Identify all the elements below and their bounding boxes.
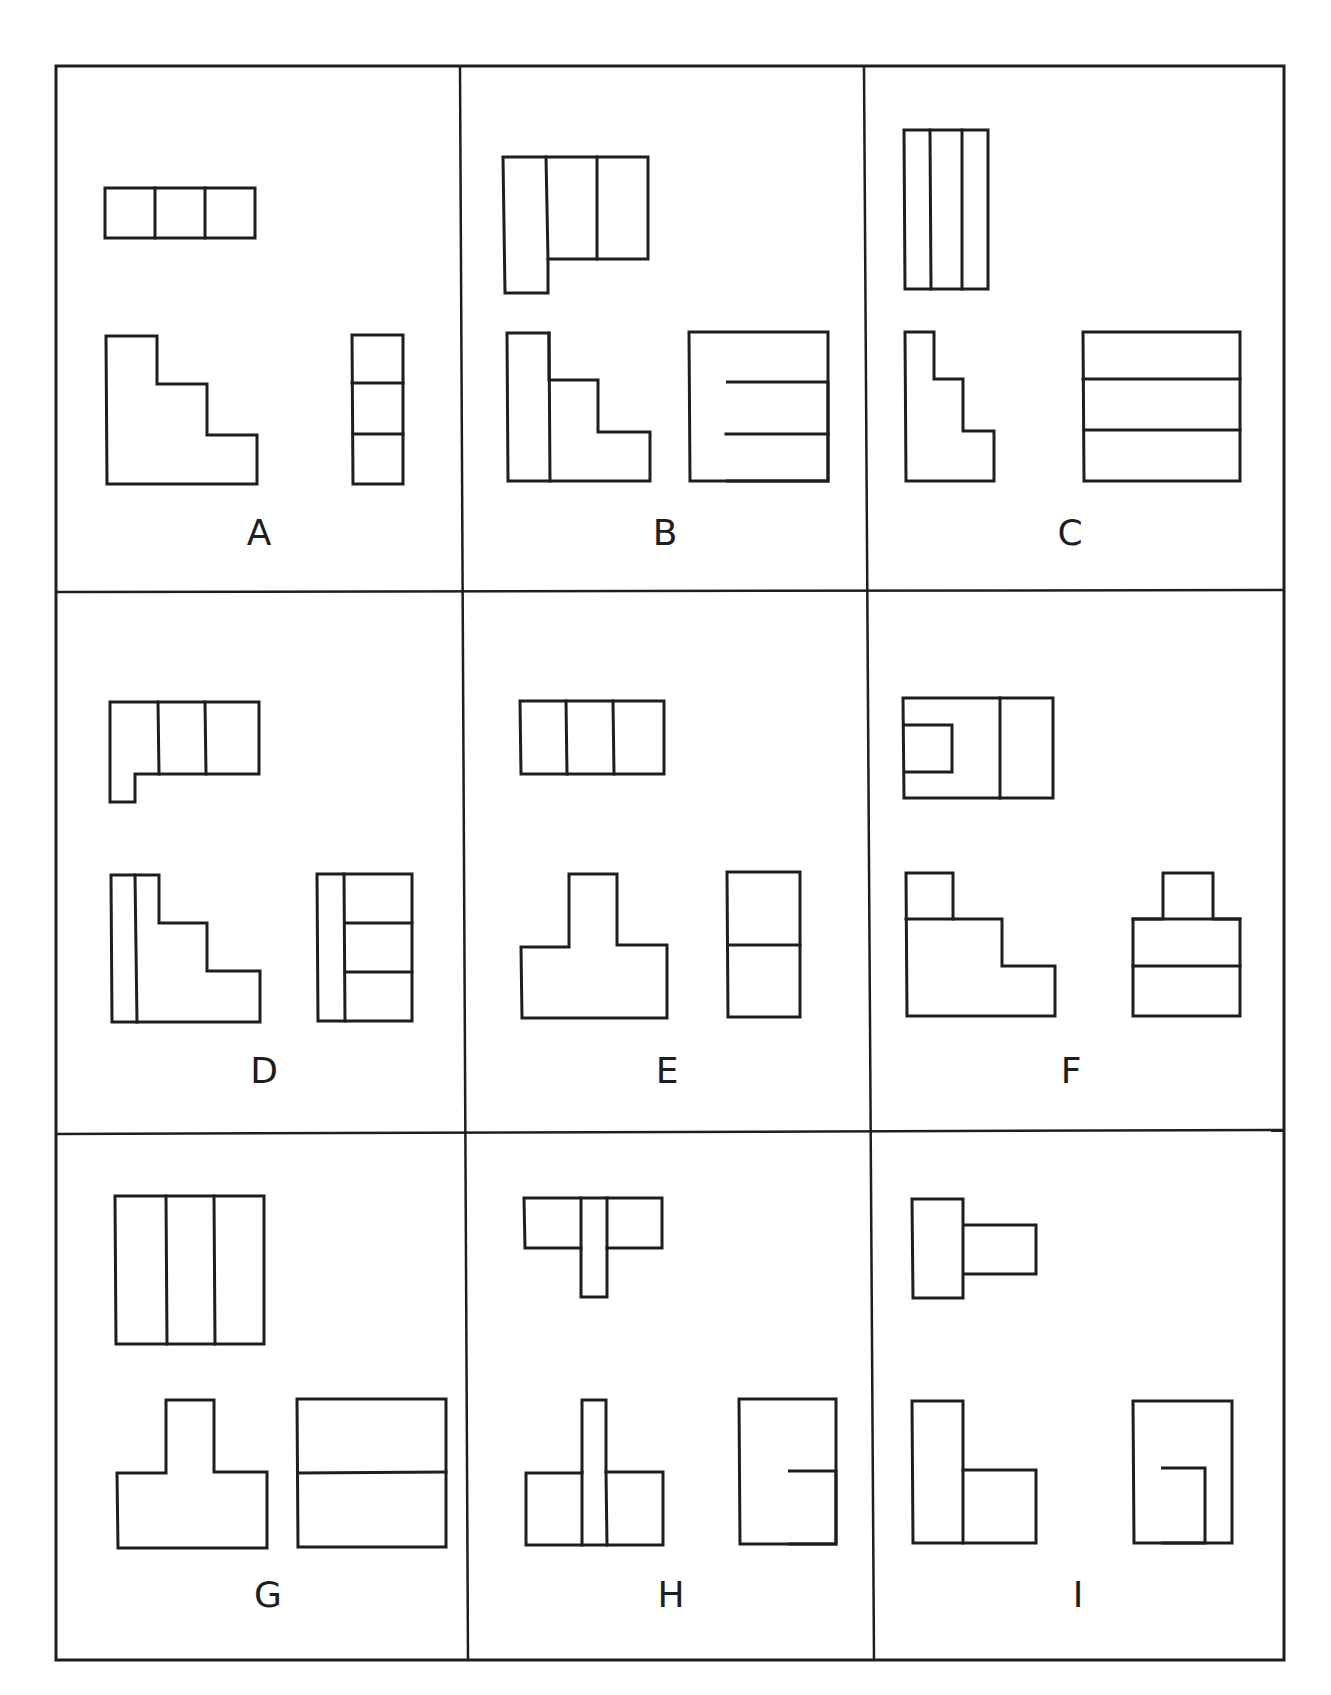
edge-line — [135, 875, 137, 1022]
front-view-b — [507, 333, 650, 481]
edge-line — [158, 702, 159, 774]
column-divider — [864, 66, 874, 1660]
panel-label-e: E — [656, 1050, 679, 1091]
front-view-h — [526, 1400, 663, 1545]
outline — [963, 1225, 1036, 1274]
outline — [526, 1400, 663, 1545]
edge-line — [606, 1472, 607, 1545]
outline — [904, 725, 952, 772]
side-view-f — [1133, 873, 1240, 1016]
side-view-h — [739, 1399, 836, 1544]
outline — [524, 1198, 662, 1297]
panel-label-f: F — [1061, 1050, 1082, 1091]
panel-label-d: D — [250, 1050, 278, 1091]
edge-line — [344, 874, 345, 1021]
top-view-i — [912, 1199, 1036, 1298]
outline — [317, 874, 412, 1021]
side-view-c — [1083, 332, 1240, 481]
outline — [903, 698, 1053, 798]
top-view-g — [115, 1196, 264, 1344]
panel-i — [912, 1199, 1232, 1543]
front-view-d — [111, 875, 260, 1022]
side-view-a — [352, 335, 403, 484]
outline — [521, 874, 667, 1018]
outline — [520, 701, 664, 774]
outline — [105, 188, 255, 238]
outline — [106, 336, 257, 484]
edge-line — [546, 157, 548, 259]
panel-labels: A B C D E F G H I — [247, 512, 1084, 1615]
top-view-c — [904, 130, 988, 289]
outline — [906, 873, 1055, 1016]
panel-g — [115, 1196, 446, 1548]
edge-line — [298, 1472, 446, 1473]
front-view-i — [912, 1401, 1036, 1543]
outline — [904, 130, 988, 289]
outline — [111, 875, 260, 1022]
orthographic-views-sheet: A B C D E F G H I — [0, 0, 1331, 1695]
panel-d — [110, 702, 412, 1022]
side-view-b — [689, 332, 828, 481]
outline — [689, 332, 828, 481]
outline — [726, 382, 828, 481]
side-view-i — [1133, 1401, 1232, 1543]
panel-b — [503, 157, 828, 481]
edge-line — [166, 1196, 167, 1344]
panel-label-h: H — [657, 1574, 684, 1615]
top-view-f — [903, 698, 1053, 798]
panel-label-g: G — [254, 1574, 282, 1615]
outline — [912, 1199, 963, 1298]
outline — [1083, 332, 1240, 481]
row-divider — [56, 1130, 1284, 1134]
top-view-e — [520, 701, 664, 774]
outline — [117, 1400, 267, 1548]
front-view-g — [117, 1400, 267, 1548]
top-view-h — [524, 1198, 662, 1297]
outline — [905, 332, 994, 481]
panel-a — [105, 188, 403, 484]
front-view-a — [106, 336, 257, 484]
side-view-g — [297, 1399, 446, 1547]
panel-grid — [56, 66, 1284, 1660]
edge-line — [205, 702, 206, 774]
outline — [115, 1196, 264, 1344]
side-view-d — [317, 874, 412, 1021]
outline — [788, 1471, 836, 1544]
outline — [1133, 1401, 1232, 1543]
outline — [507, 333, 650, 481]
panel-h — [524, 1198, 836, 1545]
panel-c — [904, 130, 1240, 481]
edge-line — [930, 130, 931, 289]
outer-frame — [56, 66, 1284, 1660]
outline — [110, 702, 259, 802]
panel-label-a: A — [247, 512, 272, 553]
outline — [912, 1401, 1036, 1543]
outline — [1161, 1468, 1205, 1543]
row-divider — [56, 590, 1284, 592]
front-view-e — [521, 874, 667, 1018]
outline — [352, 335, 403, 484]
column-divider — [460, 66, 468, 1660]
panel-label-b: B — [653, 512, 678, 553]
edge-line — [566, 701, 567, 774]
front-view-f — [906, 873, 1055, 1016]
panel-f — [903, 698, 1240, 1016]
panel-label-i: I — [1073, 1574, 1084, 1615]
view-drawings — [105, 130, 1240, 1548]
edge-line — [613, 701, 614, 774]
panel-e — [520, 701, 800, 1018]
outline — [503, 157, 648, 293]
edge-line — [549, 333, 550, 481]
panel-label-c: C — [1057, 512, 1082, 553]
top-view-d — [110, 702, 259, 802]
top-view-b — [503, 157, 648, 293]
side-view-e — [727, 872, 800, 1017]
front-view-c — [905, 332, 994, 481]
top-view-a — [105, 188, 255, 238]
edge-line — [214, 1196, 215, 1344]
outline — [1133, 873, 1240, 1016]
